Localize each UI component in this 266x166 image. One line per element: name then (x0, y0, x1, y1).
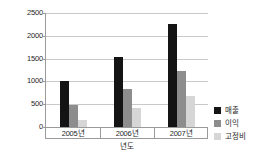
y-tick-label-2000: 2000 (7, 32, 43, 40)
legend-item-이익[interactable]: 이익 (214, 117, 266, 130)
bar-2006-고정비 (132, 108, 141, 127)
y-tick-mark-500 (42, 104, 46, 105)
bar-2005-고정비 (78, 120, 87, 127)
legend-item-매출[interactable]: 매출 (214, 104, 266, 117)
x-axis-band (45, 127, 208, 139)
bar-group-2007 (168, 13, 195, 127)
bar-2006-매출 (114, 57, 123, 127)
y-tick-mark-1000 (42, 81, 46, 82)
y-tick-label-0: 0 (7, 123, 43, 131)
y-tick-mark-1500 (42, 59, 46, 60)
y-tick-label-1500: 1500 (7, 55, 43, 63)
bar-2006-이익 (123, 89, 132, 127)
y-tick-label-1000: 1000 (7, 77, 43, 85)
y-tick-label-500: 500 (7, 100, 43, 108)
y-tick-label-2500: 2500 (7, 9, 43, 17)
legend-swatch-icon-고정비 (214, 133, 221, 140)
bar-2005-매출 (60, 81, 69, 127)
x-axis-title: 년도 (45, 142, 208, 151)
legend-label-매출: 매출 (225, 106, 239, 115)
legend-item-고정비[interactable]: 고정비 (214, 130, 266, 143)
bar-group-2006 (114, 13, 141, 127)
plot-area: 2005년 2006년 2007년 (45, 13, 208, 128)
legend-label-이익: 이익 (225, 119, 239, 128)
bar-2007-이익 (177, 71, 186, 127)
bar-chart: 2500 2000 1500 1000 500 0 (0, 0, 266, 166)
bar-group-2005 (60, 13, 87, 127)
y-tick-mark-2000 (42, 36, 46, 37)
bar-2007-매출 (168, 24, 177, 128)
legend: 매출 이익 고정비 (214, 104, 266, 143)
legend-swatch-icon-매출 (214, 107, 221, 114)
legend-swatch-icon-이익 (214, 120, 221, 127)
bar-2005-이익 (69, 105, 78, 127)
bar-2007-고정비 (186, 96, 195, 127)
legend-label-고정비: 고정비 (225, 132, 245, 141)
y-tick-mark-2500 (42, 13, 46, 14)
